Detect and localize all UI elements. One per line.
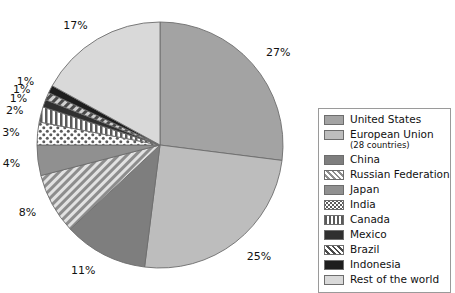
- legend-label-european-union: European Union: [350, 128, 434, 140]
- legend-label-china: China: [350, 153, 380, 165]
- pie-slice-group: [37, 22, 283, 268]
- legend-swatch-japan: [324, 185, 344, 195]
- legend-label-canada: Canada: [350, 213, 390, 225]
- slice-label-rest-of-the-world: 17%: [63, 19, 87, 32]
- slice-label-united-states: 27%: [266, 46, 290, 59]
- legend-label-brazil: Brazil: [350, 243, 379, 255]
- legend-label-indonesia: Indonesia: [350, 258, 401, 270]
- legend-label-rest-of-the-world: Rest of the world: [350, 273, 439, 285]
- legend-label-india: India: [350, 198, 376, 210]
- legend-item-mexico[interactable]: Mexico: [324, 228, 446, 242]
- slice-label-russian-federation: 8%: [19, 206, 36, 219]
- legend-label-mexico: Mexico: [350, 228, 387, 240]
- legend-item-china[interactable]: China: [324, 153, 446, 167]
- legend-swatch-brazil: [324, 245, 344, 255]
- legend-swatch-canada: [324, 215, 344, 225]
- legend-label-japan: Japan: [350, 183, 379, 195]
- legend-swatch-united-states: [324, 115, 344, 125]
- legend-item-brazil[interactable]: Brazil: [324, 243, 446, 257]
- slice-label-canada: 2%: [6, 104, 23, 117]
- legend-swatch-european-union: [324, 130, 344, 140]
- legend-item-rest-of-the-world[interactable]: Rest of the world: [324, 273, 446, 287]
- legend-swatch-mexico: [324, 230, 344, 240]
- slice-label-european-union: 25%: [247, 250, 271, 263]
- slice-label-indonesia: 1%: [17, 75, 34, 88]
- legend-label-russian-federation: Russian Federation: [350, 168, 450, 180]
- legend-item-european-union[interactable]: European Union(28 countries): [324, 128, 446, 152]
- slice-label-japan: 4%: [3, 157, 20, 170]
- legend-swatch-china: [324, 155, 344, 165]
- legend-swatch-indonesia: [324, 260, 344, 270]
- legend-swatch-india: [324, 200, 344, 210]
- chart-legend: United StatesEuropean Union(28 countries…: [318, 108, 451, 293]
- pie-slice-united-states[interactable]: [160, 22, 283, 160]
- legend-item-japan[interactable]: Japan: [324, 183, 446, 197]
- slice-label-india: 3%: [2, 126, 19, 139]
- slice-label-china: 11%: [71, 264, 95, 277]
- legend-label-united-states: United States: [350, 113, 421, 125]
- legend-item-indonesia[interactable]: Indonesia: [324, 258, 446, 272]
- legend-sublabel-european-union: (28 countries): [350, 140, 434, 150]
- legend-swatch-russian-federation: [324, 170, 344, 180]
- legend-item-united-states[interactable]: United States: [324, 113, 446, 127]
- legend-item-russian-federation[interactable]: Russian Federation: [324, 168, 446, 182]
- legend-item-canada[interactable]: Canada: [324, 213, 446, 227]
- legend-item-india[interactable]: India: [324, 198, 446, 212]
- legend-swatch-rest-of-the-world: [324, 275, 344, 285]
